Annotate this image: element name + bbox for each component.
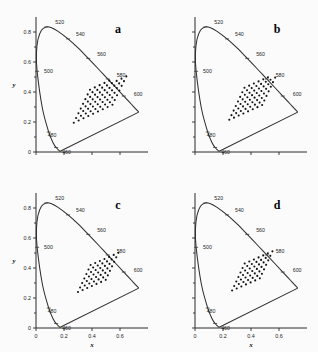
data-point — [252, 277, 254, 279]
data-point — [111, 258, 113, 260]
data-point — [271, 250, 273, 252]
data-point — [238, 115, 240, 117]
panel-d: 00.20.40.6x460480500520540560580600d — [159, 176, 318, 352]
data-point — [228, 119, 230, 121]
purple-boundary-line — [60, 288, 139, 327]
data-point — [111, 89, 113, 91]
data-point — [96, 96, 98, 98]
data-point — [101, 94, 103, 96]
wavelength-label-540: 540 — [235, 207, 244, 213]
y-tick-label: 0.4 — [24, 265, 32, 271]
data-point — [242, 98, 244, 100]
data-point — [251, 101, 253, 103]
data-point — [250, 281, 252, 283]
data-point — [97, 103, 99, 105]
data-point — [261, 273, 263, 275]
wavelength-label-580: 580 — [276, 72, 285, 78]
data-point — [85, 273, 87, 275]
data-point — [258, 263, 260, 265]
data-point — [77, 112, 79, 114]
data-point — [104, 272, 106, 274]
data-point — [231, 289, 233, 291]
data-point — [91, 285, 93, 287]
panel-c: 00.20.40.60.800.20.40.6xy460480500520540… — [0, 176, 159, 352]
data-point — [247, 272, 249, 274]
x-tick-label: 0.4 — [88, 333, 96, 339]
y-tick-label: 0.6 — [24, 235, 32, 241]
data-point — [115, 256, 117, 258]
data-point — [73, 122, 75, 124]
data-point — [111, 265, 113, 267]
data-point — [89, 89, 91, 91]
data-point — [84, 98, 86, 100]
data-point — [265, 257, 267, 259]
data-point — [87, 108, 89, 110]
data-point — [92, 273, 94, 275]
data-point — [254, 272, 256, 274]
wavelength-label-500: 500 — [203, 244, 212, 250]
data-point — [246, 89, 248, 91]
y-axis-title: y — [11, 81, 16, 89]
wavelength-label-600: 600 — [134, 91, 143, 97]
data-point — [265, 264, 267, 266]
data-point — [92, 98, 94, 100]
chromaticity-plot-d: 00.20.40.6x460480500520540560580600d — [159, 176, 318, 352]
wavelength-label-600: 600 — [293, 91, 302, 97]
data-point — [260, 259, 262, 261]
data-point — [89, 103, 91, 105]
data-point — [92, 106, 94, 108]
data-point — [244, 276, 246, 278]
data-point — [254, 279, 256, 281]
wavelength-label-560: 560 — [256, 227, 265, 233]
data-point — [99, 84, 101, 86]
data-point — [95, 276, 97, 278]
data-point — [242, 274, 244, 276]
data-point — [256, 106, 258, 108]
wavelength-label-480: 480 — [207, 308, 216, 314]
wavelength-label-460: 460 — [62, 149, 71, 155]
x-axis-title: x — [89, 341, 94, 349]
data-point — [270, 86, 272, 88]
data-point — [90, 110, 92, 112]
y-tick-label: 0.6 — [24, 59, 32, 65]
panel-letter-b: b — [274, 22, 281, 36]
wavelength-label-560: 560 — [97, 227, 106, 233]
data-point — [94, 94, 96, 96]
data-point — [249, 267, 251, 269]
data-point — [254, 97, 256, 99]
data-point — [237, 276, 239, 278]
data-point — [256, 99, 258, 101]
data-point — [248, 260, 250, 262]
data-point — [244, 108, 246, 110]
data-point — [242, 105, 244, 107]
x-tick-label: 0.4 — [247, 333, 255, 339]
wavelength-label-460: 460 — [221, 325, 230, 331]
data-point — [262, 78, 264, 80]
data-point — [263, 85, 265, 87]
data-point — [269, 255, 271, 257]
data-point — [116, 87, 118, 89]
data-point — [99, 106, 101, 108]
data-point — [267, 76, 269, 78]
wavelength-label-520: 520 — [55, 195, 64, 201]
data-point — [97, 110, 99, 112]
data-point — [251, 263, 253, 265]
data-point — [125, 75, 127, 77]
panel-letter-d: d — [274, 198, 281, 212]
wavelength-label-520: 520 — [214, 195, 223, 201]
wavelength-label-500: 500 — [44, 244, 53, 250]
data-point — [235, 280, 237, 282]
data-point — [233, 285, 235, 287]
y-axis-title: y — [11, 257, 16, 265]
data-point — [263, 99, 265, 101]
data-point — [87, 115, 89, 117]
data-point — [258, 270, 260, 272]
data-point — [94, 86, 96, 88]
data-point — [109, 270, 111, 272]
data-point — [252, 108, 254, 110]
data-point — [86, 280, 88, 282]
data-point — [258, 256, 260, 258]
data-point — [82, 117, 84, 119]
y-tick-label: 0.4 — [24, 89, 32, 95]
data-point — [104, 265, 106, 267]
